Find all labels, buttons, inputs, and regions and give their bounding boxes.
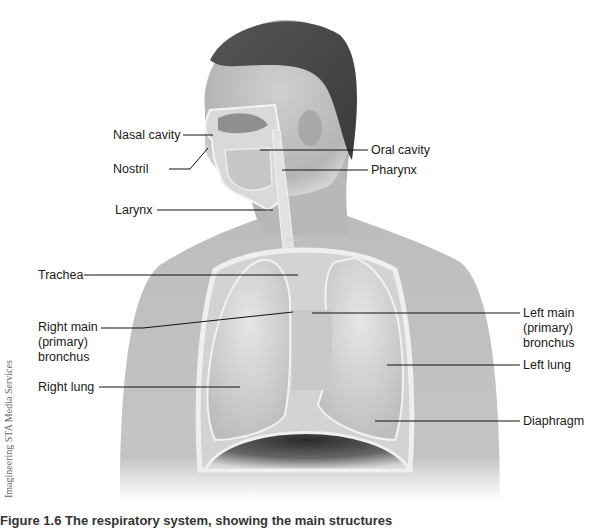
label-larynx: Larynx (115, 203, 153, 218)
label-diaphragm: Diaphragm (523, 414, 584, 429)
mediastinum (292, 310, 332, 390)
label-right-main-bronchus: Right main (primary) bronchus (38, 320, 98, 365)
label-oral-cavity: Oral cavity (371, 143, 430, 158)
label-trachea: Trachea (38, 268, 83, 283)
label-nasal-cavity: Nasal cavity (113, 128, 180, 143)
label-right-lung: Right lung (38, 380, 94, 395)
label-left-main-bronchus: Left main (primary) bronchus (523, 306, 574, 351)
label-left-lung: Left lung (523, 358, 571, 373)
ear (298, 110, 322, 146)
image-credit: Imagineering STA Media Services (3, 360, 14, 498)
label-nostril: Nostril (113, 162, 148, 177)
label-pharynx: Pharynx (371, 163, 417, 178)
figure-caption: Figure 1.6 The respiratory system, showi… (0, 513, 392, 528)
